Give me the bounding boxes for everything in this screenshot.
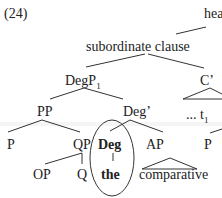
node-c-bar: C’ (200, 74, 214, 88)
node-op: OP (33, 168, 51, 182)
node-degp: DegP1 (65, 74, 101, 93)
node-deg: Deg (98, 138, 121, 152)
degp-label: DegP (65, 73, 96, 88)
node-pp: PP (37, 105, 53, 119)
node-subordinate-clause: subordinate clause (86, 40, 190, 54)
node-trace: ... t1 (186, 108, 208, 127)
node-qp: QP (73, 138, 91, 152)
node-p-right: P (204, 138, 212, 152)
root-node-partial: hea (204, 7, 222, 21)
node-q: Q (77, 168, 87, 182)
degp-subscript: 1 (96, 81, 101, 91)
trace-label: ... t (186, 107, 204, 122)
node-the: the (101, 168, 120, 182)
node-comparative: comparative (139, 168, 208, 182)
example-number: (24) (4, 7, 27, 21)
trace-subscript: 1 (204, 115, 209, 125)
node-ap: AP (146, 138, 164, 152)
node-deg-bar: Deg’ (123, 105, 151, 119)
node-p-left: P (7, 138, 15, 152)
